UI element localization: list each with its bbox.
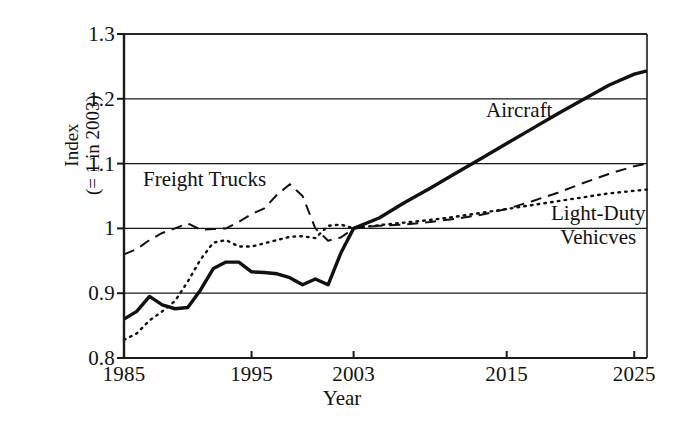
x-axis-ticks (124, 351, 634, 358)
series-label-aircraft: Aircraft (486, 99, 552, 123)
series-line-aircraft (124, 71, 647, 319)
line-chart: 0.80.911.11.21.3 19851995200320152025 In… (0, 0, 684, 421)
y-tick-label: 0.9 (40, 283, 115, 304)
series-label-freight-trucks: Freight Trucks (143, 168, 266, 192)
y-axis-title: Index (= 1 in 2003) (61, 60, 121, 230)
x-tick-label: 2025 (613, 364, 656, 385)
x-tick-label: 1995 (230, 364, 273, 385)
x-tick-label: 2015 (485, 364, 528, 385)
x-tick-label: 1985 (103, 364, 146, 385)
series-label-light-duty-vehicles: Light-Duty Vehicves (551, 202, 646, 249)
y-tick-label: 1.3 (40, 24, 115, 45)
x-axis-title: Year (0, 386, 684, 411)
series-label-light-duty-line-1: Light-Duty (551, 202, 646, 226)
y-axis-title-line-2: (= 1 in 2003) (82, 60, 103, 230)
series-label-light-duty-line-2: Vehicves (551, 226, 646, 250)
axis-frame (124, 34, 647, 358)
y-axis-title-line-1: Index (61, 60, 82, 230)
x-tick-label: 2003 (332, 364, 375, 385)
gridlines (124, 34, 647, 358)
